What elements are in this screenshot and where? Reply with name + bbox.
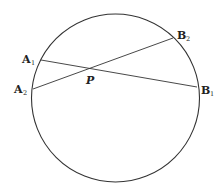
label-b1-subscript: 1 xyxy=(210,90,214,98)
chord-a1-b1 xyxy=(41,60,197,87)
circle xyxy=(32,14,200,182)
label-b2-subscript: 2 xyxy=(186,35,190,43)
label-b2-main: B xyxy=(177,29,186,42)
label-a1-subscript: 1 xyxy=(31,59,35,67)
label-b1-main: B xyxy=(201,84,210,97)
label-a2-subscript: 2 xyxy=(23,89,27,97)
label-a2-main: A xyxy=(13,83,23,96)
label-a1: A 1 xyxy=(21,53,35,67)
chord-diagram: A 1 A 2 B 2 B 1 P xyxy=(0,0,224,194)
label-b1: B 1 xyxy=(201,84,214,98)
label-p: P xyxy=(85,74,95,87)
chord-a2-b2 xyxy=(33,38,173,89)
label-b2: B 2 xyxy=(177,29,190,43)
label-a1-main: A xyxy=(21,53,31,66)
label-a2: A 2 xyxy=(13,83,27,97)
